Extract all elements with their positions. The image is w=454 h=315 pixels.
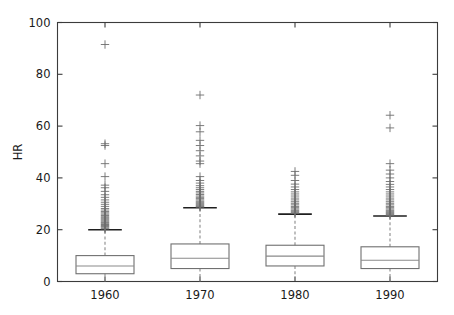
x-tick-label: 1960 bbox=[90, 288, 119, 302]
boxplot-figure: 020406080100HR1960197019801990 bbox=[0, 0, 454, 315]
x-tick-label: 1980 bbox=[280, 288, 309, 302]
y-tick-label: 100 bbox=[29, 16, 51, 30]
x-tick-label: 1990 bbox=[375, 288, 404, 302]
box-iqr bbox=[76, 256, 134, 274]
y-tick-label: 20 bbox=[36, 223, 51, 237]
boxplot-canvas: 020406080100HR1960197019801990 bbox=[0, 0, 454, 315]
box-iqr bbox=[171, 244, 229, 269]
box-iqr bbox=[361, 247, 419, 269]
x-tick-label: 1970 bbox=[185, 288, 214, 302]
y-tick-label: 60 bbox=[36, 119, 51, 133]
y-axis-title: HR bbox=[11, 144, 25, 161]
plot-frame bbox=[58, 23, 438, 282]
y-tick-label: 0 bbox=[43, 275, 50, 289]
y-tick-label: 80 bbox=[36, 67, 51, 81]
y-tick-label: 40 bbox=[36, 171, 51, 185]
